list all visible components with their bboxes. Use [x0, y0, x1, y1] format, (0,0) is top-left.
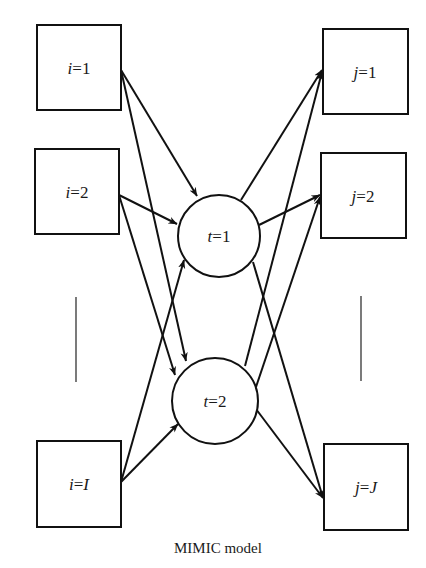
edge-t2-j2 — [256, 197, 320, 387]
output-label-j1: j=1 — [352, 63, 377, 82]
edge-t1-j1 — [241, 70, 322, 200]
input-label-i1: i=1 — [68, 59, 91, 78]
input-label-iI: i=I — [69, 475, 90, 494]
edge-i1-t2 — [121, 70, 186, 361]
output-label-jJ: j=J — [353, 478, 378, 497]
edge-i2-t2 — [119, 195, 175, 375]
output-label-j2: j=2 — [350, 187, 375, 206]
edge-i1-t1 — [121, 70, 197, 196]
diagram-svg: i=1 i=2 i=I t=1 t=2 j=1 j=2 — [0, 0, 426, 568]
diagram-caption: MIMIC model — [174, 540, 262, 556]
latent-label-t2: t=2 — [204, 392, 227, 411]
input-node-iI: i=I — [37, 441, 121, 527]
output-node-jJ: j=J — [324, 444, 408, 530]
output-node-j2: j=2 — [321, 153, 406, 238]
input-node-i1: i=1 — [37, 25, 121, 110]
input-node-i2: i=2 — [35, 149, 119, 234]
mimic-diagram: i=1 i=2 i=I t=1 t=2 j=1 j=2 — [0, 0, 426, 568]
latent-label-t1: t=1 — [208, 227, 231, 246]
input-label-i2: i=2 — [66, 183, 89, 202]
latent-node-t2: t=2 — [172, 358, 258, 444]
latent-node-t1: t=1 — [178, 195, 260, 277]
output-node-j1: j=1 — [323, 29, 408, 114]
edge-t2-jJ — [256, 409, 323, 498]
